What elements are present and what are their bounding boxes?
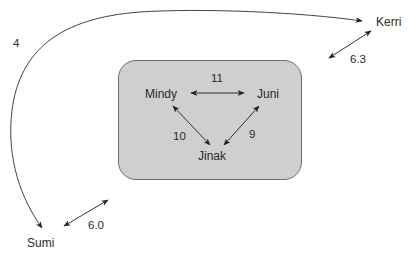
distance-diagram: Kerri Mindy Juni Jinak Sumi 4 11 10 9 6.… [0,0,409,254]
edge-label-sumi-group: 6.0 [88,219,104,231]
edge-kerri-sumi [11,10,362,228]
edges-layer [0,0,409,254]
node-jinak: Jinak [198,150,226,162]
edge-label-juni-jinak: 9 [249,128,255,140]
edge-label-kerri-sumi: 4 [13,37,19,49]
edge-label-mindy-jinak: 10 [173,130,186,142]
node-mindy: Mindy [145,88,177,100]
edge-label-kerri-group: 6.3 [350,53,366,65]
node-juni: Juni [257,88,279,100]
edge-label-mindy-juni: 11 [211,72,223,84]
node-sumi: Sumi [27,237,54,249]
node-kerri: Kerri [376,16,401,28]
